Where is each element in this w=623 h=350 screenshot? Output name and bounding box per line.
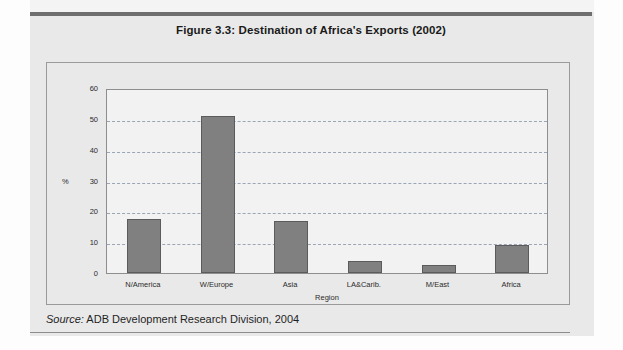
y-axis-tick-label: 60 <box>64 85 98 93</box>
figure-page: Figure 3.3: Destination of Africa's Expo… <box>0 0 623 350</box>
bar <box>495 245 529 273</box>
top-divider-rule <box>30 12 592 16</box>
y-axis-tick-label: 0 <box>64 270 98 278</box>
source-text: ADB Development Research Division, 2004 <box>84 313 299 325</box>
bottom-divider-rule <box>30 332 570 333</box>
x-axis-tick-label: N/America <box>103 280 183 289</box>
bar <box>274 221 308 273</box>
y-axis-tick-label: 10 <box>64 239 98 247</box>
source-caption: Source: ADB Development Research Divisio… <box>46 313 299 325</box>
bar <box>348 261 382 273</box>
x-axis-tick-label: Africa <box>471 280 551 289</box>
page-margin-left <box>0 0 30 350</box>
bar <box>201 116 235 273</box>
x-axis-tick-label: W/Europe <box>177 280 257 289</box>
x-axis-title: Region <box>106 293 548 302</box>
gridline <box>107 244 547 245</box>
y-axis-tick-label: 50 <box>64 116 98 124</box>
bar-chart: % Region 0102030405060N/AmericaW/EuropeA… <box>46 62 570 305</box>
page-margin-right <box>594 0 623 350</box>
y-axis-tick-label: 40 <box>64 147 98 155</box>
bar <box>127 219 161 273</box>
page-margin-bottom <box>0 336 623 350</box>
x-axis-tick-label: Asia <box>250 280 330 289</box>
gridline <box>107 183 547 184</box>
y-axis-tick-label: 20 <box>64 209 98 217</box>
gridline <box>107 121 547 122</box>
x-axis-tick-label: M/East <box>398 280 478 289</box>
gridline <box>107 152 547 153</box>
gridline <box>107 213 547 214</box>
y-axis-tick-label: 30 <box>64 178 98 186</box>
page-margin-top <box>0 0 623 12</box>
x-axis-tick-label: LA&Carib. <box>324 280 404 289</box>
figure-title: Figure 3.3: Destination of Africa's Expo… <box>30 24 592 36</box>
bar <box>422 265 456 273</box>
plot-area <box>106 89 548 274</box>
source-label: Source: <box>46 313 84 325</box>
